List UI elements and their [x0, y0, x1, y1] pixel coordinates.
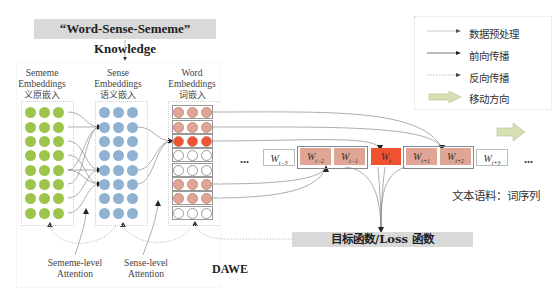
word-dot — [187, 150, 198, 161]
sense-dot — [127, 208, 138, 219]
sememe-dot — [39, 193, 50, 204]
sense-dot — [113, 165, 124, 176]
word-dot — [201, 107, 212, 118]
sense-dot — [113, 136, 124, 147]
word-dot — [187, 136, 198, 147]
sememe-dot — [25, 193, 36, 204]
word-dot — [173, 136, 184, 147]
sememe-dot — [25, 122, 36, 133]
word-token-target: Wt — [371, 148, 401, 165]
sememe-dot — [39, 136, 50, 147]
sense-dot — [99, 179, 110, 190]
sememe-dot — [39, 107, 50, 118]
word-dot — [187, 165, 198, 176]
sense-dot — [99, 193, 110, 204]
word-token-context: Wt+2 — [440, 148, 471, 165]
attention-line: Sense-level — [116, 258, 176, 269]
word-dot — [201, 179, 212, 190]
word-token-outside: Wt+3 — [476, 149, 508, 166]
word-dot — [201, 165, 212, 176]
sememe-attention-label: Sememe-level Attention — [42, 258, 108, 280]
legend-label: 数据预处理 — [469, 26, 519, 41]
sense-dot — [127, 179, 138, 190]
sememe-dot — [53, 193, 64, 204]
solid-arrow-icon — [427, 48, 463, 58]
word-subscript: t+1 — [421, 158, 430, 164]
sense-dot — [99, 122, 110, 133]
sememe-dot — [25, 165, 36, 176]
sequence-ellipsis-right: ... — [524, 152, 533, 167]
sememe-dot — [25, 136, 36, 147]
word-token-outside: Wt−3 — [263, 149, 295, 166]
corpus-label: 文本语料：词序列 — [452, 187, 540, 203]
sense-dot — [113, 179, 124, 190]
word-dot — [187, 193, 198, 204]
sememe-dot — [39, 122, 50, 133]
word-dot — [201, 193, 212, 204]
sememe-dot — [53, 136, 64, 147]
sense-dot — [99, 165, 110, 176]
sense-dot — [127, 165, 138, 176]
sememe-dot — [53, 107, 64, 118]
word-dot — [201, 136, 212, 147]
word-base: W — [483, 153, 491, 164]
sense-dot — [127, 150, 138, 161]
word-dot — [201, 150, 212, 161]
word-dot — [173, 208, 184, 219]
word-dot — [173, 107, 184, 118]
word-subscript: t+3 — [492, 160, 501, 166]
word-subscript: t−1 — [349, 158, 358, 164]
word-base: W — [270, 153, 278, 164]
word-dot — [187, 179, 198, 190]
sememe-dot — [39, 165, 50, 176]
word-dot — [201, 208, 212, 219]
word-dot — [187, 107, 198, 118]
word-dot — [173, 179, 184, 190]
word-dot — [173, 165, 184, 176]
sense-dot — [113, 193, 124, 204]
sememe-dot — [53, 208, 64, 219]
attention-line: Attention — [116, 269, 176, 280]
word-token-context: Wt−2 — [300, 148, 331, 165]
sememe-dot — [39, 208, 50, 219]
model-label: DAWE — [212, 262, 248, 277]
legend-item-forward: 前向传播 — [427, 48, 463, 60]
legend-label: 移动方向 — [469, 91, 509, 106]
sequence-ellipsis-left: ... — [240, 152, 249, 167]
sense-dot — [99, 150, 110, 161]
sense-dot — [127, 122, 138, 133]
word-subscript: t−3 — [279, 160, 288, 166]
word-dot — [187, 208, 198, 219]
word-dot — [173, 193, 184, 204]
sense-dot — [113, 208, 124, 219]
word-dot — [173, 122, 184, 133]
word-subscript: t — [389, 158, 391, 164]
legend: 数据预处理 前向传播 反向传播 移动方向 — [414, 16, 552, 110]
block-arrow-icon — [427, 91, 463, 103]
loss-function-box: 目标函数/Loss 函数 — [292, 232, 473, 247]
word-dot — [201, 122, 212, 133]
word-dot — [187, 122, 198, 133]
legend-item-backward: 反向传播 — [427, 70, 463, 82]
sense-dot — [127, 107, 138, 118]
sememe-dot — [25, 208, 36, 219]
sememe-dot — [53, 179, 64, 190]
sense-attention-label: Sense-level Attention — [116, 258, 176, 280]
word-dot — [173, 150, 184, 161]
sense-dot — [127, 136, 138, 147]
sense-dot — [99, 136, 110, 147]
attention-line: Attention — [42, 269, 108, 280]
sememe-dot — [39, 179, 50, 190]
word-subscript: t+2 — [455, 158, 464, 164]
sememe-dot — [39, 150, 50, 161]
word-token-context: Wt−1 — [334, 148, 365, 165]
legend-item-preprocess: 数据预处理 — [427, 26, 463, 38]
sense-dot — [99, 107, 110, 118]
sense-dot — [99, 208, 110, 219]
sememe-dot — [53, 122, 64, 133]
sememe-dot — [53, 150, 64, 161]
dotted-arrow-icon — [427, 70, 463, 80]
legend-item-move: 移动方向 — [427, 91, 463, 105]
word-subscript: t−2 — [315, 158, 324, 164]
attention-line: Sememe-level — [42, 258, 108, 269]
